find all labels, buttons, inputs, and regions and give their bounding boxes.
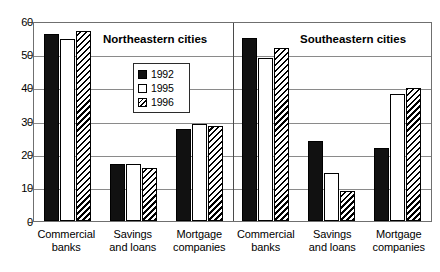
panel-title-southeastern: Southeastern cities [300,33,406,45]
panel-title-northeastern: Northeastern cities [103,33,207,45]
legend: 1992 1995 1996 [133,63,190,113]
bar-ne-mortgage-1996 [208,126,223,221]
group-ne-commercial-banks [34,23,100,221]
bar-ne-commercial-1992 [44,34,59,221]
x-label-line-2: and loans [299,241,366,254]
bar-ne-savings-1992 [110,164,125,221]
bar-ne-savings-1995 [126,164,141,221]
legend-swatch-1995-icon [138,84,147,93]
bar-ne-mortgage-1995 [192,124,207,221]
x-label-ne-savings-and-loans: Savings and loans [100,226,167,272]
y-axis: 60 50 40 30 20 10 0 [0,0,33,232]
x-label-line-1: Commercial [33,228,100,241]
x-label-line-1: Commercial [233,228,300,241]
x-axis: Commercial banks Savings and loans Mortg… [33,226,432,272]
x-label-ne-commercial-banks: Commercial banks [33,226,100,272]
group-se-mortgage-companies [365,23,431,221]
group-se-commercial-banks [233,23,299,221]
x-label-line-2: banks [33,241,100,254]
x-panel-northeastern: Commercial banks Savings and loans Mortg… [33,226,233,272]
x-label-line-1: Savings [100,228,167,241]
x-label-line-2: banks [233,241,300,254]
panel-southeastern [233,23,432,221]
bar-ne-commercial-1995 [60,39,75,221]
x-label-se-commercial-banks: Commercial banks [233,226,300,272]
legend-swatch-1992-icon [138,70,147,79]
legend-item-1996: 1996 [138,95,186,109]
bar-ne-commercial-1996 [76,31,91,221]
x-panel-southeastern: Commercial banks Savings and loans Mortg… [233,226,433,272]
legend-swatch-1996-icon [138,98,147,107]
legend-label-1992: 1992 [151,69,174,79]
x-label-line-1: Savings [299,228,366,241]
bar-se-mortgage-1992 [374,148,389,221]
bar-chart: 60 50 40 30 20 10 0 [0,0,440,272]
legend-label-1996: 1996 [151,97,174,107]
x-label-ne-mortgage-companies: Mortgage companies [166,226,233,272]
bar-se-mortgage-1996 [406,88,421,221]
group-ne-mortgage-companies [166,23,232,221]
bar-se-savings-1996 [340,191,355,221]
bar-ne-savings-1996 [142,168,157,221]
bar-se-mortgage-1995 [390,94,405,221]
x-label-se-mortgage-companies: Mortgage companies [366,226,433,272]
x-label-line-1: Mortgage [166,228,233,241]
legend-item-1992: 1992 [138,67,186,81]
x-label-line-2: companies [166,241,233,254]
bar-ne-mortgage-1992 [176,129,191,221]
group-se-savings-and-loans [299,23,365,221]
bar-se-commercial-1995 [258,58,273,221]
bar-se-commercial-1996 [274,48,289,221]
x-label-line-2: companies [366,241,433,254]
x-label-line-1: Mortgage [366,228,433,241]
y-tick-mark-0 [28,222,33,223]
bar-se-commercial-1992 [242,38,257,221]
x-label-line-2: and loans [100,241,167,254]
plot-area [33,22,432,222]
group-ne-savings-and-loans [100,23,166,221]
legend-item-1995: 1995 [138,81,186,95]
bar-groups [34,23,431,221]
bar-se-savings-1992 [308,141,323,221]
legend-label-1995: 1995 [151,83,174,93]
x-label-se-savings-and-loans: Savings and loans [299,226,366,272]
bar-se-savings-1995 [324,173,339,221]
panel-northeastern [34,23,233,221]
